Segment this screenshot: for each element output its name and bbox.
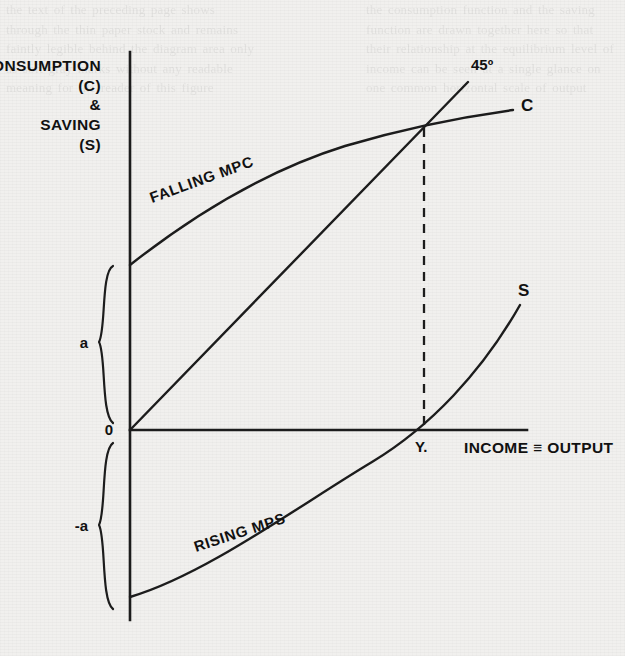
y-axis-title-line-5: (S) <box>79 136 101 153</box>
falling-mpc-note: FALLING MPC <box>147 152 256 205</box>
forty-five-degree-label: 45º <box>471 56 494 73</box>
rising-mps-note: RISING MPS <box>192 509 288 555</box>
y-axis-title-line-4: SAVING <box>40 116 101 133</box>
equilibrium-income-label: Y. <box>415 438 428 455</box>
y-axis-title-line-3: & <box>89 96 101 113</box>
y-axis-title-line-2: (C) <box>78 77 101 94</box>
lower-brace-minus-a <box>99 443 113 609</box>
y-axis-title-line-1: CONSUMPTION <box>0 57 101 74</box>
lower-brace-label: -a <box>75 517 89 534</box>
consumption-curve-label: C <box>521 96 533 115</box>
upper-brace-a <box>99 266 113 423</box>
origin-label: 0 <box>105 421 113 438</box>
figure-page: the text of the preceding page shows thr… <box>0 0 625 656</box>
upper-brace-label: a <box>80 334 89 351</box>
saving-curve-label: S <box>518 281 529 300</box>
x-axis-title: INCOME ≡ OUTPUT <box>464 439 614 456</box>
saving-curve <box>130 305 520 597</box>
consumption-saving-diagram: CONSUMPTION (C) & SAVING (S) INCOME ≡ OU… <box>0 0 625 656</box>
forty-five-degree-line <box>130 82 468 430</box>
